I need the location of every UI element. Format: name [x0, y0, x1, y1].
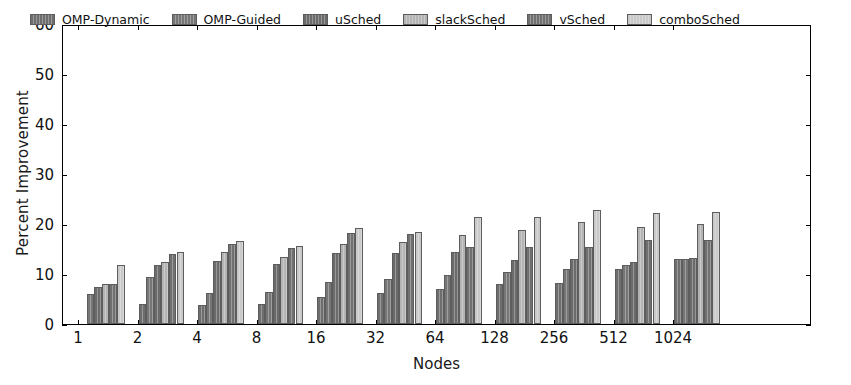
- bar: [317, 297, 325, 325]
- bar: [273, 264, 281, 324]
- x-tick-mark: [495, 320, 496, 325]
- legend-label: slackSched: [435, 12, 505, 27]
- y-tick-label: 40: [14, 116, 54, 134]
- bar: [407, 234, 415, 324]
- bar: [228, 244, 236, 324]
- bar: [109, 284, 117, 324]
- bar: [534, 217, 542, 325]
- bar: [139, 304, 147, 324]
- plot-area: [62, 25, 811, 325]
- bar: [444, 275, 452, 324]
- legend-entry: OMP-Guided: [172, 12, 282, 27]
- bar: [392, 253, 400, 325]
- bar: [221, 252, 229, 325]
- bar: [436, 289, 444, 324]
- y-tick-label: 20: [14, 216, 54, 234]
- legend-swatch-icon: [527, 14, 552, 25]
- y-tick-label: 30: [14, 166, 54, 184]
- bar: [704, 240, 712, 324]
- bar: [384, 279, 392, 324]
- y-tick-mark: [62, 175, 67, 176]
- y-tick-mark: [62, 125, 67, 126]
- bar: [712, 212, 720, 324]
- bar: [265, 292, 273, 325]
- bar: [496, 284, 504, 324]
- y-tick-mark: [62, 75, 67, 76]
- legend-label: OMP-Dynamic: [62, 12, 150, 27]
- bar: [637, 227, 645, 325]
- bar: [518, 230, 526, 324]
- y-tick-mark-right: [806, 75, 811, 76]
- bar: [466, 247, 474, 325]
- bars-layer: [63, 26, 810, 324]
- bar: [697, 224, 705, 324]
- bar: [674, 259, 682, 324]
- y-tick-label: 10: [14, 266, 54, 284]
- x-tick-label: 8: [252, 329, 262, 347]
- x-tick-mark: [197, 320, 198, 325]
- x-tick-mark: [257, 320, 258, 325]
- bar: [236, 241, 244, 325]
- x-tick-label: 4: [192, 329, 202, 347]
- legend-swatch-icon: [172, 14, 197, 25]
- x-axis-label: Nodes: [62, 355, 811, 373]
- bar: [615, 269, 623, 324]
- x-tick-mark: [316, 320, 317, 325]
- legend-entry: slackSched: [403, 12, 505, 27]
- y-tick-mark-right: [806, 125, 811, 126]
- x-tick-mark: [376, 320, 377, 325]
- bar: [578, 222, 586, 325]
- bar: [280, 257, 288, 325]
- bar: [689, 258, 697, 324]
- bar: [474, 217, 482, 325]
- bar: [593, 210, 601, 324]
- legend-entry: comboSched: [627, 12, 740, 27]
- bar: [161, 262, 169, 325]
- x-tick-label: 64: [425, 329, 444, 347]
- bar: [622, 265, 630, 324]
- bar: [503, 272, 511, 325]
- y-tick-mark-right: [806, 275, 811, 276]
- chart-legend: OMP-DynamicOMP-GuideduSchedslackSchedvSc…: [30, 8, 762, 30]
- bar: [213, 261, 221, 325]
- y-tick-mark: [62, 325, 67, 326]
- x-tick-label: 1: [73, 329, 83, 347]
- legend-entry: uSched: [303, 12, 381, 27]
- x-tick-label: 1024: [654, 329, 692, 347]
- bar: [399, 242, 407, 325]
- legend-swatch-icon: [403, 14, 428, 25]
- bar: [258, 304, 266, 324]
- bar: [206, 293, 214, 325]
- x-tick-mark: [78, 320, 79, 325]
- bar: [288, 248, 296, 325]
- bar: [459, 235, 467, 324]
- x-tick-label: 2: [133, 329, 143, 347]
- x-tick-mark: [673, 320, 674, 325]
- bar: [585, 247, 593, 325]
- x-tick-label: 128: [480, 329, 509, 347]
- legend-entry: vSched: [527, 12, 605, 27]
- bar: [451, 252, 459, 325]
- bar: [154, 265, 162, 324]
- y-tick-mark: [62, 225, 67, 226]
- bar: [377, 293, 385, 325]
- bar: [347, 233, 355, 325]
- bar: [682, 259, 690, 324]
- bar: [630, 262, 638, 325]
- legend-label: OMP-Guided: [204, 12, 282, 27]
- bar: [511, 260, 519, 324]
- bar: [177, 252, 185, 325]
- bar: [563, 269, 571, 324]
- bar: [526, 247, 534, 325]
- bar: [653, 213, 661, 325]
- x-tick-label: 256: [540, 329, 569, 347]
- bar-chart-figure: Percent Improvement 01020304050601248163…: [0, 0, 851, 385]
- y-tick-mark-right: [806, 225, 811, 226]
- bar: [645, 240, 653, 324]
- bar: [117, 265, 125, 324]
- x-tick-label: 512: [599, 329, 628, 347]
- bar: [340, 244, 348, 324]
- x-tick-mark: [554, 320, 555, 325]
- legend-label: vSched: [559, 12, 605, 27]
- y-tick-label: 0: [14, 316, 54, 334]
